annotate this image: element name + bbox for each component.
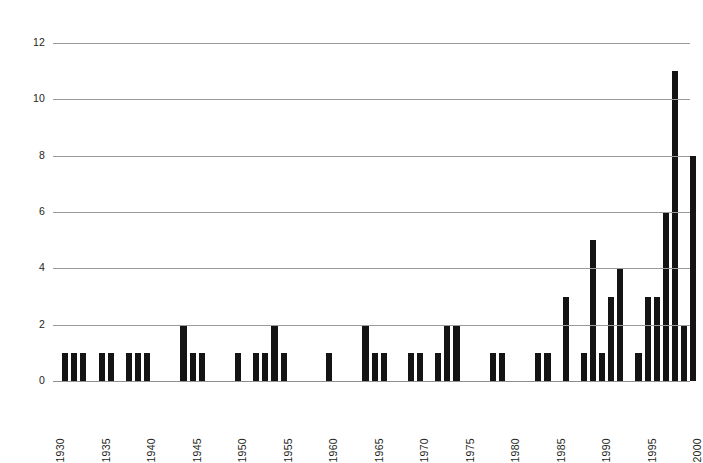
bar: [563, 297, 569, 382]
bar: [144, 353, 150, 381]
bar: [417, 353, 423, 381]
bar: [381, 353, 387, 381]
gridline-0: [53, 381, 690, 382]
bar: [99, 353, 105, 381]
x-tick-1980: 1980: [509, 386, 510, 438]
x-tick-label-1985: 1985: [555, 438, 567, 463]
gridline-4: [53, 268, 690, 269]
bar: [80, 353, 86, 381]
gridline-12: [53, 43, 690, 44]
bar: [108, 353, 114, 381]
bar: [581, 353, 587, 381]
y-axis: 024681012: [0, 0, 45, 443]
bar: [590, 240, 596, 381]
x-tick-2000: 2000: [691, 386, 692, 438]
bar: [62, 353, 68, 381]
x-tick-1950: 1950: [236, 386, 237, 438]
x-tick-label-1935: 1935: [100, 438, 112, 463]
x-tick-label-1955: 1955: [282, 438, 294, 463]
x-tick-label-1940: 1940: [145, 438, 157, 463]
bar: [690, 156, 696, 381]
bar: [435, 353, 441, 381]
bar: [654, 297, 660, 382]
bar: [544, 353, 550, 381]
bar: [71, 353, 77, 381]
y-tick-label-6: 6: [11, 206, 45, 217]
bar: [408, 353, 414, 381]
bar: [326, 353, 332, 381]
bar: [362, 325, 368, 381]
bar: [535, 353, 541, 381]
gridline-6: [53, 212, 690, 213]
bar: [635, 353, 641, 381]
bar: [499, 353, 505, 381]
x-tick-1965: 1965: [373, 386, 374, 438]
x-tick-label-1930: 1930: [54, 438, 66, 463]
x-tick-label-2000: 2000: [691, 438, 703, 463]
bar: [253, 353, 259, 381]
bar: [235, 353, 241, 381]
bar: [199, 353, 205, 381]
bar: [444, 325, 450, 381]
bar: [372, 353, 378, 381]
x-tick-1990: 1990: [600, 386, 601, 438]
bar: [645, 297, 651, 382]
gridline-10: [53, 99, 690, 100]
y-tick-label-12: 12: [11, 37, 45, 48]
x-tick-1935: 1935: [100, 386, 101, 438]
bar: [672, 71, 678, 381]
plot-area: [53, 43, 690, 381]
x-tick-label-1950: 1950: [236, 438, 248, 463]
bar: [180, 325, 186, 381]
bar: [135, 353, 141, 381]
x-tick-1940: 1940: [145, 386, 146, 438]
gridline-8: [53, 156, 690, 157]
bar: [490, 353, 496, 381]
x-tick-1970: 1970: [418, 386, 419, 438]
bar: [126, 353, 132, 381]
bar: [453, 325, 459, 381]
bar: [599, 353, 605, 381]
x-tick-label-1975: 1975: [464, 438, 476, 463]
y-tick-label-0: 0: [11, 375, 45, 386]
bar: [262, 353, 268, 381]
x-axis: 1930193519401945195019551960196519701975…: [53, 386, 690, 443]
x-tick-1985: 1985: [555, 386, 556, 438]
x-tick-label-1945: 1945: [191, 438, 203, 463]
y-tick-label-8: 8: [11, 150, 45, 161]
x-tick-label-1965: 1965: [373, 438, 385, 463]
x-tick-label-1960: 1960: [327, 438, 339, 463]
x-tick-label-1970: 1970: [418, 438, 430, 463]
bar: [281, 353, 287, 381]
y-tick-label-10: 10: [11, 93, 45, 104]
x-tick-label-1990: 1990: [600, 438, 612, 463]
x-tick-1960: 1960: [327, 386, 328, 438]
bar: [190, 353, 196, 381]
x-tick-1975: 1975: [464, 386, 465, 438]
x-tick-1945: 1945: [191, 386, 192, 438]
x-tick-label-1995: 1995: [646, 438, 658, 463]
gridline-2: [53, 325, 690, 326]
x-tick-1995: 1995: [646, 386, 647, 438]
y-tick-label-2: 2: [11, 319, 45, 330]
bar: [271, 325, 277, 381]
bar: [681, 325, 687, 381]
bar: [608, 297, 614, 382]
x-tick-label-1980: 1980: [509, 438, 521, 463]
x-tick-1955: 1955: [282, 386, 283, 438]
y-tick-label-4: 4: [11, 262, 45, 273]
bar: [663, 212, 669, 381]
x-tick-1930: 1930: [54, 386, 55, 438]
